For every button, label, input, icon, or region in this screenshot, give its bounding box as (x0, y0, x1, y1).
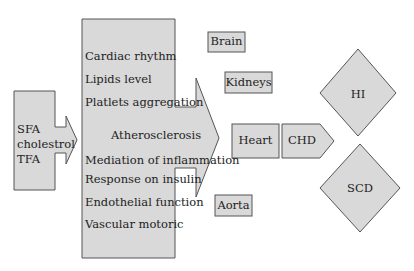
mechanism-response-on-insulin: Response on insulin (85, 174, 202, 186)
source-line-sfa: SFA (17, 124, 40, 136)
mechanism-endothelial-function: Endothelial function (85, 197, 204, 209)
mechanism-mediation-of-inflammation: Mediation of inflammation (85, 155, 240, 167)
aorta-label: Aorta (215, 200, 252, 212)
heart-label: Heart (232, 135, 279, 147)
mechanism-vascular-motoric: Vascular motoric (85, 219, 184, 231)
chd-label: CHD (282, 135, 322, 147)
diagram-canvas (0, 0, 414, 271)
brain-label: Brain (208, 36, 245, 48)
mechanism-atherosclerosis: Atherosclerosis (111, 130, 201, 142)
mechanism-cardiac-rhythm: Cardiac rhythm (85, 51, 176, 63)
source-line-cholestrol: cholestrol (17, 139, 75, 151)
mechanism-lipids-level: Lipids level (85, 74, 152, 86)
kidneys-label: Kidneys (225, 77, 272, 89)
scd-label: SCD (340, 183, 380, 195)
source-line-tfa: TFA (17, 154, 40, 166)
hi-label: HI (338, 89, 378, 101)
mechanism-platlets-aggregation: Platlets aggregation (85, 97, 203, 109)
